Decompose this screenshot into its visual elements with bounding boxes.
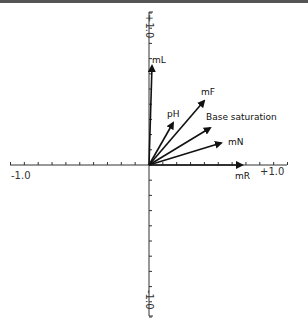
- biplot: -1.0 +1.0 +1.0 -1.0 mL mF pH Base satura…: [0, 0, 308, 329]
- x-min-label: -1.0: [11, 170, 31, 181]
- label-mL: mL: [152, 55, 166, 65]
- x-max-label: +1.0: [260, 166, 284, 177]
- y-min-label: -1.0: [144, 290, 155, 310]
- label-mF: mF: [201, 87, 215, 97]
- vector-base-saturation: [149, 128, 210, 165]
- y-max-label: +1.0: [144, 14, 155, 38]
- label-mR: mR: [235, 171, 250, 181]
- label-base-saturation: Base saturation: [206, 112, 277, 122]
- label-pH: pH: [167, 109, 179, 119]
- label-mN: mN: [228, 137, 244, 147]
